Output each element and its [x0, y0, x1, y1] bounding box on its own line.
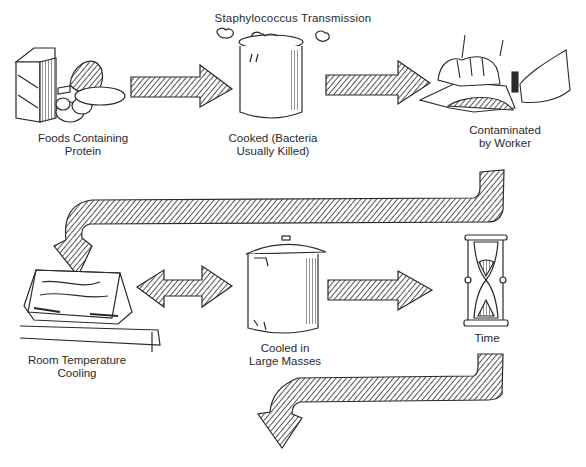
label-large-masses: Cooled in Large Masses — [240, 342, 330, 368]
diagram-canvas — [0, 0, 586, 467]
arrow-time-to-next — [258, 354, 503, 448]
label-foods: Foods Containing Protein — [28, 132, 138, 158]
label-contaminated: Contaminated by Worker — [450, 124, 560, 150]
arrow-room-temp-large-masses-bidirectional — [137, 266, 232, 307]
steaming-pot-icon — [217, 28, 329, 118]
diagram-title: Staphylococcus Transmission — [0, 12, 586, 24]
baking-pan-on-table-icon — [20, 270, 160, 352]
large-stock-pot-icon — [246, 236, 326, 333]
arrow-foods-to-cooked — [131, 65, 232, 107]
label-room-temp: Room Temperature Cooling — [22, 354, 132, 380]
arrow-cooked-to-contaminated — [326, 61, 430, 104]
label-cooked: Cooked (Bacteria Usually Killed) — [218, 132, 328, 158]
hourglass-icon — [464, 235, 508, 326]
milk-carton-ham-eggs-icon — [16, 48, 125, 122]
hands-slicing-food-icon — [420, 35, 570, 112]
arrow-large-masses-to-time — [328, 271, 432, 310]
label-time: Time — [462, 332, 512, 345]
